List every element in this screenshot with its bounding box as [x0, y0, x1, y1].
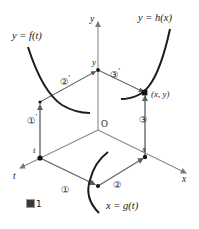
curve-label-g-of-t: x = g(t) [106, 201, 138, 212]
step-number-2-prime: ②′ [60, 75, 70, 87]
figure-caption-number: 1 [36, 199, 42, 209]
step-arrow-3-prime [98, 70, 143, 92]
step-number-1-prime: ①′ [27, 114, 37, 126]
curve-label-h-of-x: y = h(x) [138, 13, 172, 24]
point-x-vertex [143, 155, 147, 159]
figure-composition-diagram: y = f(t) y = h(x) x = g(t) y x t O y x t… [0, 0, 199, 229]
figure-square-glyph-icon [26, 199, 35, 208]
step-number-3: ③ [139, 113, 148, 125]
y-axis-label: y [90, 15, 94, 25]
vertical-risers [40, 93, 145, 158]
point-y-vertex [96, 68, 100, 72]
step-arrow-1 [40, 158, 95, 185]
vertex-label-x: x [142, 145, 146, 154]
vertex-label-t: t [33, 146, 36, 155]
step-number-1: ① [61, 183, 70, 195]
vertex-label-y: y [92, 58, 96, 67]
point-base-front [96, 184, 100, 188]
point-xy [142, 90, 148, 96]
point-label-xy: (x, y) [151, 90, 169, 99]
curve-label-f-of-t: y = f(t) [12, 31, 42, 42]
t-axis [20, 130, 98, 168]
origin-label: O [101, 120, 108, 130]
x-axis-label: x [182, 175, 186, 185]
step-number-2: ② [113, 178, 122, 190]
step-number-3-prime: ③′ [110, 68, 120, 80]
figure-caption: 1 [26, 199, 42, 209]
t-axis-label: t [13, 172, 16, 182]
point-t-vertex [37, 155, 42, 160]
point-left-top [38, 100, 41, 103]
